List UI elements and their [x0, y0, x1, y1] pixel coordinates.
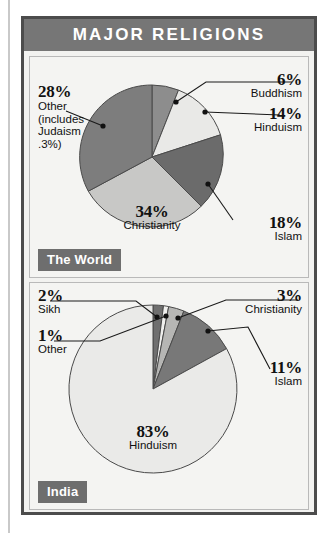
world-label-christianity-name: Christianity [96, 220, 208, 232]
world-label-christianity-pct: 34% [96, 203, 208, 220]
world-label-islam: 18% Islam [269, 214, 302, 243]
title-bar: MAJOR RELIGIONS [24, 19, 314, 51]
world-label-islam-name: Islam [269, 231, 302, 243]
leader-dot-islam-india [205, 328, 210, 333]
world-label-buddhism-name: Buddhism [251, 88, 302, 100]
world-label-hinduism: 14% Hinduism [254, 105, 302, 134]
india-label-hinduism-name: Hinduism [97, 440, 209, 452]
india-label-other: 1% Other [38, 327, 67, 356]
india-label-islam-name: Islam [270, 376, 302, 388]
india-chart-panel: 2% Sikh 1% Other 3% Christianity 11% Isl… [29, 282, 309, 510]
india-label-other-name: Other [38, 344, 67, 356]
badge-india: India [38, 481, 87, 503]
world-label-hinduism-name: Hinduism [254, 122, 302, 134]
leader-dot-other-india [163, 313, 168, 318]
india-label-hinduism: 83% Hinduism [97, 423, 209, 452]
world-label-hinduism-pct: 14% [254, 105, 302, 122]
world-label-christianity: 34% Christianity [96, 203, 208, 232]
leader-dot-hinduism [202, 109, 207, 114]
india-label-sikh: 2% Sikh [38, 287, 63, 316]
badge-the-world: The World [38, 249, 121, 271]
world-label-buddhism-pct: 6% [251, 71, 302, 88]
world-label-other-line4: .3%) [38, 138, 84, 150]
india-label-islam: 11% Islam [270, 359, 302, 388]
world-label-other-line3: Judaism [38, 125, 84, 137]
world-chart-area: 28% Other (includes Judaism .3%) 6% Budd… [30, 57, 308, 277]
india-label-christianity-name: Christianity [245, 304, 302, 316]
world-label-other-pct: 28% [38, 83, 84, 100]
page-title: MAJOR RELIGIONS [73, 25, 266, 45]
india-label-christianity-pct: 3% [245, 287, 302, 304]
world-chart-panel: 28% Other (includes Judaism .3%) 6% Budd… [29, 56, 309, 278]
india-chart-area: 2% Sikh 1% Other 3% Christianity 11% Isl… [30, 283, 308, 509]
world-label-islam-pct: 18% [269, 214, 302, 231]
india-label-other-pct: 1% [38, 327, 67, 344]
world-label-other: 28% Other (includes Judaism .3%) [38, 83, 84, 150]
leader-dot-christianity-india [175, 315, 180, 320]
leader-line-islam [208, 184, 233, 220]
world-label-buddhism: 6% Buddhism [251, 71, 302, 100]
world-label-other-name: Other [38, 100, 84, 112]
india-label-christianity: 3% Christianity [245, 287, 302, 316]
india-pie-svg [30, 283, 316, 509]
infographic-poster: MAJOR RELIGIONS [21, 16, 317, 515]
leader-dot-islam [205, 181, 210, 186]
india-label-sikh-name: Sikh [38, 304, 63, 316]
india-label-sikh-pct: 2% [38, 287, 63, 304]
india-label-hinduism-pct: 83% [97, 423, 209, 440]
leader-dot-other [100, 123, 105, 128]
world-label-other-line2: (includes [38, 113, 84, 125]
india-label-islam-pct: 11% [270, 359, 302, 376]
leader-dot-buddhism [173, 99, 178, 104]
left-margin-rule [8, 0, 10, 533]
